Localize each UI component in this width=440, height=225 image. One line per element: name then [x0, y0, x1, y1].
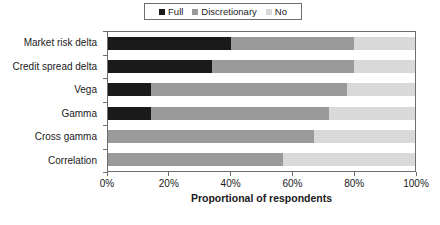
bar-segment[interactable] — [108, 83, 151, 96]
y-axis-tick — [103, 125, 107, 126]
y-axis-tick-label: Cross gamma — [0, 130, 101, 143]
bar-segment[interactable] — [314, 130, 415, 143]
plot-area — [107, 31, 416, 172]
y-axis-tick — [103, 55, 107, 56]
bar-segment[interactable] — [151, 83, 347, 96]
x-axis-tick — [354, 172, 355, 176]
x-axis-tick-label: 0% — [100, 177, 114, 190]
x-axis-tick-label: 60% — [282, 177, 302, 190]
y-axis-tick — [103, 31, 107, 32]
bar-row[interactable] — [108, 60, 415, 73]
x-axis-tick — [292, 172, 293, 176]
y-axis-tick-label: Gamma — [0, 107, 101, 120]
bar-segment[interactable] — [329, 107, 415, 120]
y-axis-tick-label: Correlation — [0, 154, 101, 167]
bar-segment[interactable] — [108, 107, 151, 120]
legend-swatch-icon — [159, 9, 165, 15]
bar-segment[interactable] — [108, 130, 314, 143]
x-axis-labels: 0%20%40%60%80%100% — [107, 177, 416, 190]
x-axis-tick — [107, 172, 108, 176]
x-axis-tick-label: 80% — [344, 177, 364, 190]
x-axis-tick-label: 40% — [221, 177, 241, 190]
bar-row[interactable] — [108, 107, 415, 120]
bar-segment[interactable] — [347, 83, 415, 96]
legend-item[interactable]: Discretionary — [192, 7, 256, 17]
bar-segment[interactable] — [151, 107, 329, 120]
x-axis-tick-label: 20% — [159, 177, 179, 190]
legend-swatch-icon — [192, 9, 198, 15]
bar-segment[interactable] — [283, 153, 415, 166]
y-axis-tick-label: Vega — [0, 83, 101, 96]
x-axis-tick-label: 100% — [403, 177, 429, 190]
bar-segment[interactable] — [108, 60, 212, 73]
bar-row[interactable] — [108, 37, 415, 50]
bars-container — [108, 32, 415, 171]
legend-item-label: Full — [168, 7, 183, 17]
bar-segment[interactable] — [108, 153, 283, 166]
legend-item-label: No — [275, 7, 287, 17]
bar-segment[interactable] — [354, 37, 415, 50]
legend-item[interactable]: Full — [159, 7, 183, 17]
y-axis-tick-label: Credit spread delta — [0, 60, 101, 73]
x-axis-ticks — [107, 172, 416, 176]
y-axis-tick — [103, 149, 107, 150]
x-axis-tick — [416, 172, 417, 176]
legend-item-label: Discretionary — [201, 7, 256, 17]
chart-legend: FullDiscretionaryNo — [144, 3, 302, 20]
y-axis-tick — [103, 102, 107, 103]
x-axis-title: Proportional of respondents — [107, 192, 416, 204]
legend-item[interactable]: No — [266, 7, 287, 17]
legend-swatch-icon — [266, 9, 272, 15]
bar-row[interactable] — [108, 130, 415, 143]
bar-row[interactable] — [108, 153, 415, 166]
bar-segment[interactable] — [212, 60, 353, 73]
bar-segment[interactable] — [231, 37, 354, 50]
y-axis-labels: Market risk deltaCredit spread deltaVega… — [0, 31, 101, 172]
y-axis-tick — [103, 78, 107, 79]
x-axis-tick — [230, 172, 231, 176]
y-axis-ticks — [103, 31, 107, 172]
y-axis-tick-label: Market risk delta — [0, 36, 101, 49]
bar-row[interactable] — [108, 83, 415, 96]
bar-segment[interactable] — [354, 60, 415, 73]
x-axis-tick — [168, 172, 169, 176]
bar-segment[interactable] — [108, 37, 231, 50]
